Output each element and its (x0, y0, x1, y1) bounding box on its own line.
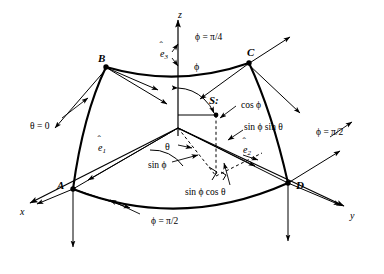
arc-ab-left (73, 67, 106, 189)
y-axis-label: y (350, 211, 354, 221)
spherical-patch-boundary (73, 63, 288, 209)
basis-vector-e3-label: e3 (160, 49, 168, 61)
leader-cos-phi (220, 106, 236, 118)
vertex-dot-d (285, 180, 290, 185)
arrow-c-2 (200, 64, 248, 99)
leader-e3-down (172, 58, 178, 66)
e1-subscript: 1 (102, 147, 106, 155)
e2-symbol: e (243, 144, 247, 155)
phi-pi-over-2-bottom-label: ϕ = π/2 (151, 217, 178, 227)
sin-phi-length-label: sin ϕ (148, 161, 166, 171)
e1-symbol: e (98, 142, 102, 153)
vertex-dot-a (70, 186, 75, 191)
e2-subscript: 2 (247, 149, 251, 157)
sin-phi-cos-theta-component-label: sin ϕ cos θ (185, 188, 225, 198)
e3-subscript: 3 (164, 53, 168, 61)
point-d-label: D (296, 180, 304, 191)
dashed-origin-to-base (178, 128, 216, 176)
vertex-dot-c (246, 60, 251, 65)
phi-pi-over-2-right-label: ϕ = π/2 (316, 128, 343, 138)
phi-angle-label: ϕ (194, 62, 199, 72)
arrow-b-1 (107, 68, 158, 90)
theta-angle-label: θ (165, 142, 170, 152)
theta-equals-zero-label: θ = 0 (30, 122, 49, 132)
z-axis-label: z (178, 10, 182, 20)
point-s-label: S: (209, 95, 219, 106)
leader-theta (178, 145, 192, 148)
e3-symbol: e (160, 48, 164, 59)
origin-to-vertex-lines (73, 128, 288, 189)
basis-vector-e2-label: e2 (243, 145, 251, 157)
phi-arc (178, 88, 204, 99)
cos-phi-component-label: cos ϕ (241, 101, 261, 111)
point-a-label: A (57, 180, 64, 191)
spherical-coordinates-figure: z x y B C A D S: e1 e2 e3 ϕ θ ϕ = π/4 θ … (0, 0, 384, 274)
point-b-label: B (98, 53, 105, 64)
leader-sin-phi-sin-theta (228, 130, 243, 140)
phi-pi-over-4-label: ϕ = π/4 (195, 33, 222, 43)
leader-e3 (172, 44, 178, 52)
arrow-b-3 (55, 68, 107, 128)
point-c-label: C (247, 47, 254, 58)
arc-ad-bottom (73, 183, 288, 209)
leader-theta-zero (62, 98, 88, 118)
point-s-dot (214, 113, 219, 118)
leader-phi-pi-2-bottom (110, 200, 140, 214)
vertex-dot-b (103, 64, 108, 69)
basis-vector-e1-label: e1 (98, 143, 106, 155)
x-axis-label: x (20, 207, 24, 217)
sin-phi-sin-theta-component-label: sin ϕ sin θ (244, 123, 283, 133)
